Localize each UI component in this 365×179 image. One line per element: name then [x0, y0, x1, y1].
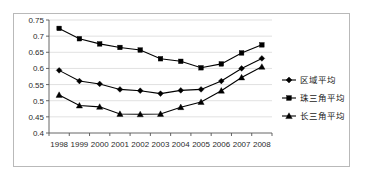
data-point-square-marker — [138, 48, 143, 53]
data-point-square-marker — [97, 42, 102, 47]
x-tick-labels-group: 1998199920002001200220032004200520062007… — [50, 140, 271, 149]
y-tick-label: 0.7 — [33, 32, 45, 41]
x-tick-label: 2008 — [253, 140, 271, 149]
data-point-diamond-marker — [178, 88, 184, 94]
x-tick-label: 2001 — [111, 140, 129, 149]
data-point-square-marker — [199, 65, 204, 70]
y-tick-label: 0.45 — [28, 113, 44, 122]
y-tick-label: 0.6 — [33, 64, 45, 73]
data-series-group — [56, 26, 265, 117]
series-1 — [56, 56, 264, 97]
x-tick-label: 2003 — [152, 140, 170, 149]
data-point-diamond-marker — [239, 66, 245, 72]
legend-item-1[interactable]: 区域平均 — [282, 75, 336, 85]
data-point-diamond-marker — [158, 91, 164, 97]
series-line — [59, 58, 262, 93]
data-point-diamond-marker — [259, 56, 265, 62]
legend-label: 区域平均 — [300, 75, 336, 85]
data-point-triangle-marker — [238, 74, 244, 80]
data-point-diamond-marker — [117, 87, 123, 93]
data-point-triangle-marker — [218, 88, 224, 94]
x-tick-label: 2007 — [233, 140, 251, 149]
data-point-square-marker — [239, 51, 244, 56]
data-point-diamond-marker — [218, 78, 224, 84]
legend-label: 长三角平均 — [300, 111, 345, 121]
y-tick-label: 0.75 — [28, 16, 44, 25]
series-line — [59, 28, 262, 67]
y-tick-label: 0.55 — [28, 81, 44, 90]
series-3 — [56, 64, 265, 117]
y-tick-label: 0.5 — [33, 97, 45, 106]
chart-figure: 0.40.450.50.550.60.650.70.75 19981999200… — [0, 0, 365, 179]
line-chart-plot: 0.40.450.50.550.60.650.70.75 19981999200… — [14, 14, 349, 166]
data-point-diamond-marker — [286, 77, 292, 83]
series-2 — [57, 26, 264, 70]
y-tick-label: 0.65 — [28, 48, 44, 57]
legend-item-2[interactable]: 珠三角平均 — [282, 93, 345, 103]
y-tick-labels-group: 0.40.450.50.550.60.650.70.75 — [28, 16, 44, 138]
data-point-square-marker — [260, 43, 265, 48]
data-point-diamond-marker — [198, 87, 204, 93]
data-point-diamond-marker — [77, 78, 83, 84]
chart-legend: 区域平均珠三角平均长三角平均 — [282, 75, 345, 121]
data-point-triangle-marker — [56, 92, 62, 98]
x-tick-label: 1998 — [50, 140, 68, 149]
legend-label: 珠三角平均 — [300, 93, 345, 103]
data-point-square-marker — [287, 96, 292, 101]
x-tick-label: 1999 — [71, 140, 89, 149]
data-point-square-marker — [118, 45, 123, 50]
data-point-square-marker — [77, 36, 82, 41]
x-tick-label: 2000 — [91, 140, 109, 149]
data-point-diamond-marker — [97, 81, 103, 87]
data-point-square-marker — [158, 56, 163, 61]
data-point-square-marker — [178, 59, 183, 64]
x-tick-label: 2004 — [172, 140, 190, 149]
x-tick-label: 2002 — [131, 140, 149, 149]
y-tick-label: 0.4 — [33, 129, 45, 138]
data-point-diamond-marker — [137, 88, 143, 94]
x-tick-label: 2005 — [192, 140, 210, 149]
data-point-square-marker — [219, 62, 224, 67]
data-point-triangle-marker — [259, 64, 265, 70]
x-tick-label: 2006 — [212, 140, 230, 149]
data-point-triangle-marker — [198, 99, 204, 105]
legend-item-3[interactable]: 长三角平均 — [282, 111, 345, 121]
chart-frame: 0.40.450.50.550.60.650.70.75 19981999200… — [13, 13, 350, 167]
data-point-square-marker — [57, 26, 62, 31]
